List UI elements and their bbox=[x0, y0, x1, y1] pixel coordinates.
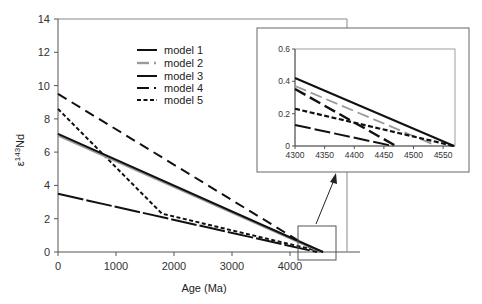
inset-x-tick-label: 4300 bbox=[286, 150, 305, 160]
inset-y-tick-label: 0.2 bbox=[278, 109, 290, 119]
y-tick-label: 10 bbox=[38, 80, 50, 92]
y-tick-label: 6 bbox=[44, 146, 50, 158]
x-axis-label: Age (Ma) bbox=[181, 282, 226, 294]
inset-x-tick-label: 4400 bbox=[345, 150, 364, 160]
y-tick-label: 8 bbox=[44, 113, 50, 125]
chart-figure: 0 2 4 6 8 10 12 14 0 1000 2000 3000 4000… bbox=[0, 0, 482, 304]
y-axis-label: ε143Nd bbox=[13, 134, 26, 166]
y-tick-label: 12 bbox=[38, 46, 50, 58]
y-ticks: 0 2 4 6 8 10 12 14 bbox=[38, 13, 58, 258]
inset-x-tick-label: 4350 bbox=[315, 150, 334, 160]
y-tick-label: 2 bbox=[44, 213, 50, 225]
legend-label: model 5 bbox=[164, 94, 203, 106]
legend-label: model 3 bbox=[164, 70, 203, 82]
inset-x-tick-label: 4500 bbox=[404, 150, 423, 160]
x-tick-label: 2000 bbox=[162, 260, 186, 272]
inset-x-tick-label: 4550 bbox=[434, 150, 453, 160]
y-tick-label: 4 bbox=[44, 179, 50, 191]
inset-plot-area bbox=[295, 49, 455, 146]
series-model-3 bbox=[58, 194, 317, 252]
inset-chart: 0 0.2 0.4 0.6 4300 4350 4400 4450 4500 4… bbox=[257, 28, 469, 172]
y-tick-label: 0 bbox=[44, 246, 50, 258]
legend-label: model 2 bbox=[164, 57, 203, 69]
arrow-head-icon bbox=[330, 173, 337, 184]
x-tick-label: 0 bbox=[55, 260, 61, 272]
inset-y-tick-label: 0.4 bbox=[278, 76, 290, 86]
legend: model 1 model 2 model 3 model 4 model 5 bbox=[137, 44, 203, 106]
y-tick-label: 14 bbox=[38, 13, 50, 25]
inset-y-tick-label: 0.6 bbox=[278, 44, 290, 54]
inset-arrow bbox=[316, 180, 334, 224]
x-tick-label: 1000 bbox=[104, 260, 128, 272]
legend-label: model 1 bbox=[164, 44, 203, 56]
x-tick-label: 3000 bbox=[220, 260, 244, 272]
inset-x-tick-label: 4450 bbox=[374, 150, 393, 160]
legend-label: model 4 bbox=[164, 82, 203, 94]
x-tick-label: 4000 bbox=[278, 260, 302, 272]
x-ticks: 0 1000 2000 3000 4000 bbox=[55, 252, 302, 272]
